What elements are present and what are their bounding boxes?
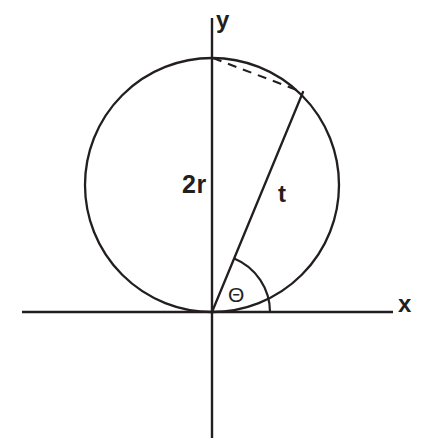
y-axis-label: y xyxy=(216,8,229,32)
x-axis-label: x xyxy=(398,292,411,316)
angle-theta-label: Θ xyxy=(228,284,244,305)
chord-length-label: t xyxy=(278,182,286,206)
diameter-label: 2r xyxy=(182,172,207,197)
dashed-chord-line xyxy=(213,58,302,92)
geometry-diagram: y x 2r t Θ xyxy=(0,0,432,448)
chord-t-line xyxy=(212,92,303,312)
geometry-canvas xyxy=(0,0,432,448)
